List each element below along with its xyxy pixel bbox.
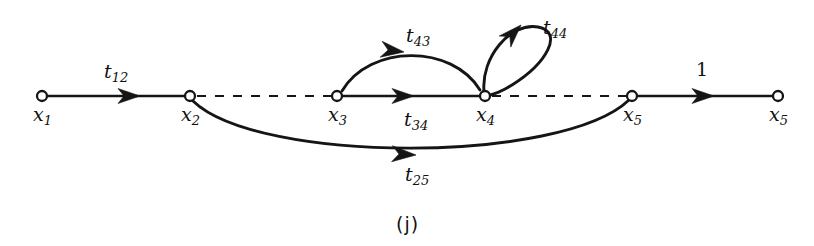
node-x1[interactable] — [37, 91, 47, 101]
gain-label-t12-subscript: 12 — [112, 70, 129, 85]
figure-caption: (j) — [396, 215, 419, 234]
node-label-x3-subscript: 3 — [339, 113, 347, 128]
node-label-x3-symbol: x — [328, 103, 339, 125]
node-label-x5-symbol: x — [623, 103, 634, 125]
gain-label-t12-symbol: t — [104, 60, 112, 82]
gain-label-t25: t25 — [405, 165, 430, 184]
node-label-x5out: x5 — [769, 105, 788, 124]
gain-label-t44-subscript: 44 — [551, 26, 568, 41]
node-label-x5out-subscript: 5 — [780, 113, 788, 128]
node-x5[interactable] — [627, 91, 637, 101]
node-label-x3: x3 — [328, 105, 347, 124]
gain-label-t44: t44 — [543, 18, 568, 37]
node-label-x1-subscript: 1 — [44, 113, 52, 128]
gain-label-t43: t43 — [406, 26, 431, 45]
gain-label-t34-symbol: t — [404, 108, 412, 130]
node-label-x5: x5 — [623, 105, 642, 124]
gain-label-t25-symbol: t — [405, 163, 413, 185]
gain-label-t12: t12 — [104, 62, 129, 81]
node-label-x4-subscript: 4 — [487, 113, 495, 128]
gain-label-t34: t34 — [404, 110, 429, 129]
gain-label-t43-symbol: t — [406, 24, 414, 46]
node-label-x4: x4 — [476, 105, 495, 124]
node-label-x2-subscript: 2 — [192, 113, 200, 128]
node-label-x5out-symbol: x — [769, 103, 780, 125]
gain-label-t25-subscript: 25 — [413, 173, 430, 188]
node-label-x1-symbol: x — [33, 103, 44, 125]
gain-label-unity: 1 — [696, 60, 708, 79]
gain-label-t43-subscript: 43 — [414, 34, 431, 49]
node-x4[interactable] — [480, 91, 490, 101]
node-label-x2-symbol: x — [181, 103, 192, 125]
edge-x4-x3-arc-above — [342, 56, 480, 91]
node-x2[interactable] — [185, 91, 195, 101]
node-label-x5-subscript: 5 — [634, 113, 642, 128]
node-label-x1: x1 — [33, 105, 52, 124]
node-x3[interactable] — [332, 91, 342, 101]
figure-signal-flow-graph-j: x1 x2 x3 x4 x5 x5 t12 t34 1 t43 t44 t25 … — [0, 0, 814, 246]
gain-label-unity-value: 1 — [696, 58, 708, 80]
gain-label-t44-symbol: t — [543, 16, 551, 38]
edge-x4-x4-self-loop — [484, 27, 551, 96]
node-x5out[interactable] — [773, 91, 783, 101]
gain-label-t34-subscript: 34 — [412, 118, 429, 133]
node-label-x4-symbol: x — [476, 103, 487, 125]
arrowhead-x4-self-loop — [499, 19, 526, 47]
node-label-x2: x2 — [181, 105, 200, 124]
